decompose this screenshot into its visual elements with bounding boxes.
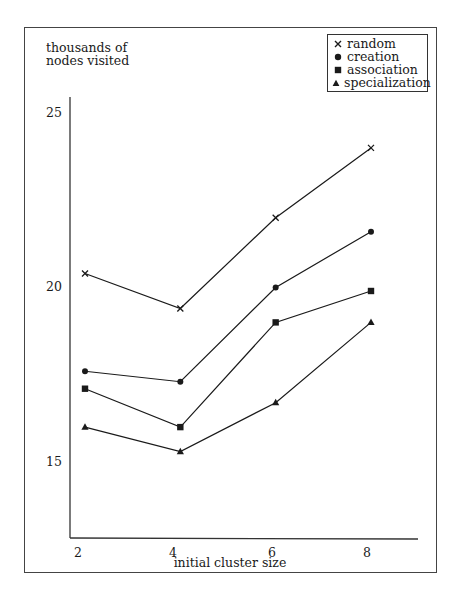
series-layer — [81, 145, 374, 454]
triangle-marker-icon — [367, 319, 374, 325]
series-line — [85, 148, 371, 309]
triangle-marker-icon — [81, 423, 88, 429]
series-random — [82, 145, 374, 312]
x-axis-label: initial cluster size — [150, 555, 310, 570]
square-marker-icon — [177, 424, 183, 430]
x-tick-label: 8 — [359, 545, 375, 560]
series-specialization — [81, 319, 374, 455]
x-marker-icon — [273, 215, 279, 221]
circle-marker-icon — [82, 368, 88, 374]
x-marker-icon — [332, 40, 343, 48]
x-axis — [70, 538, 418, 539]
legend-label: specialization — [344, 76, 431, 89]
legend-item-specialization: specialization — [332, 76, 427, 89]
x-tick-label: 2 — [70, 545, 86, 560]
legend: random creation association specializati… — [327, 34, 428, 92]
series-creation — [82, 229, 374, 385]
circle-marker-icon — [273, 285, 279, 291]
circle-marker-icon — [332, 53, 343, 61]
square-marker-icon — [332, 66, 343, 74]
triangle-marker-icon — [332, 79, 340, 87]
x-marker-icon — [368, 145, 374, 151]
square-marker-icon — [368, 288, 374, 294]
x-marker-icon — [177, 305, 183, 311]
circle-marker-icon — [368, 229, 374, 235]
y-tick-label: 25 — [38, 105, 62, 120]
square-marker-icon — [272, 319, 278, 325]
y-axis-label: thousands of nodes visited — [46, 41, 129, 67]
series-association — [82, 288, 374, 431]
y-axis-label-line-2: nodes visited — [46, 54, 129, 67]
square-marker-icon — [82, 386, 88, 392]
series-line — [85, 322, 371, 451]
x-marker-icon — [82, 271, 88, 277]
y-tick-label: 15 — [38, 454, 62, 469]
y-tick-label: 20 — [38, 279, 62, 294]
circle-marker-icon — [177, 379, 183, 385]
